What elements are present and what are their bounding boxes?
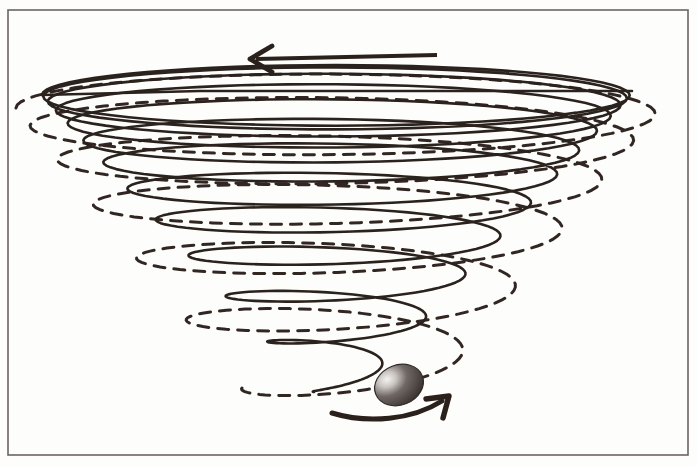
vortex-funnel-diagram: [0, 0, 697, 467]
figure-canvas: Gravity Well Vortex Funnel Hand-drawn di…: [0, 0, 697, 467]
paper-background: [0, 0, 697, 467]
